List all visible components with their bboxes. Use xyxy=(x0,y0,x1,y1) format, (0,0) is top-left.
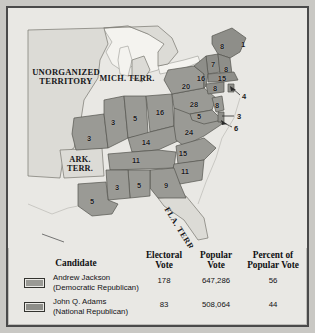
election-map-figure: UNORGANIZED TERRITORY MICH. TERR. ARK. T… xyxy=(0,0,315,333)
results-table: Candidate Electoral Vote Popular Vote Pe… xyxy=(8,246,307,325)
electoral-label-virginia: 24 xyxy=(185,128,193,137)
value-electoral-vote-jackson: 178 xyxy=(141,276,187,285)
electoral-label-illinois: 3 xyxy=(111,118,115,127)
figure-frame: UNORGANIZED TERRITORY MICH. TERR. ARK. T… xyxy=(6,6,309,327)
table-row: John Q. Adams (National Republican) 83 5… xyxy=(8,298,307,322)
electoral-label-maryland: 5 xyxy=(197,112,201,121)
electoral-label-connecticut: 8 xyxy=(213,84,217,93)
electoral-label-new-york-jackson: 20 xyxy=(182,82,190,91)
value-electoral-vote-adams: 83 xyxy=(141,300,187,309)
missouri xyxy=(72,114,108,150)
electoral-label-massachusetts: 15 xyxy=(218,74,226,83)
electoral-label-maine-split: 1 xyxy=(241,40,245,49)
header-electoral-vote: Electoral Vote xyxy=(141,250,187,270)
electoral-label-new-jersey: 8 xyxy=(215,101,219,110)
electoral-label-louisiana: 5 xyxy=(90,197,94,206)
value-percent-adams: 44 xyxy=(242,300,304,309)
electoral-label-new-hampshire: 8 xyxy=(224,65,228,74)
electoral-label-rhode-island: 4 xyxy=(242,92,246,101)
electoral-label-delaware: 3 xyxy=(237,112,241,121)
electoral-label-ohio: 16 xyxy=(156,108,164,117)
legend-swatch-jackson xyxy=(24,278,45,288)
delaware xyxy=(218,112,224,122)
value-popular-vote-jackson: 647,286 xyxy=(194,276,238,285)
legend-swatch-fill xyxy=(26,280,43,286)
electoral-label-mississippi: 3 xyxy=(115,183,119,192)
legend-swatch-adams xyxy=(24,302,45,312)
electoral-label-missouri: 3 xyxy=(87,134,91,143)
header-percent-popular-vote: Percent of Popular Vote xyxy=(242,250,304,270)
electoral-label-georgia: 9 xyxy=(164,181,168,190)
electoral-label-south-carolina: 11 xyxy=(181,167,189,176)
electoral-label-north-carolina: 15 xyxy=(179,149,187,158)
candidate-name-jackson: Andrew Jackson (Democratic Republican) xyxy=(53,273,153,294)
electoral-label-pennsylvania: 28 xyxy=(190,100,198,109)
candidate-name-adams: John Q. Adams (National Republican) xyxy=(53,297,153,318)
value-percent-jackson: 56 xyxy=(242,276,304,285)
electoral-label-alabama: 5 xyxy=(137,181,141,190)
electoral-label-maryland-east: 6 xyxy=(234,124,238,133)
us-map-svg xyxy=(8,8,307,248)
map-area: UNORGANIZED TERRITORY MICH. TERR. ARK. T… xyxy=(8,8,307,248)
electoral-label-indiana: 5 xyxy=(133,114,137,123)
electoral-label-new-york-adams: 16 xyxy=(197,74,205,83)
electoral-label-vermont: 7 xyxy=(211,60,215,69)
electoral-label-maine: 8 xyxy=(220,42,224,51)
tennessee xyxy=(108,150,176,170)
header-popular-vote: Popular Vote xyxy=(194,250,238,270)
table-row: Andrew Jackson (Democratic Republican) 1… xyxy=(8,274,307,298)
arkansas-territory-label: ARK. TERR. xyxy=(61,156,99,173)
header-candidate: Candidate xyxy=(28,258,124,268)
electoral-label-kentucky: 14 xyxy=(142,138,150,147)
electoral-label-tennessee: 11 xyxy=(132,156,140,165)
value-popular-vote-adams: 508,064 xyxy=(194,300,238,309)
legend-swatch-fill xyxy=(26,304,43,310)
michigan-territory-label: MICH. TERR. xyxy=(90,75,164,84)
